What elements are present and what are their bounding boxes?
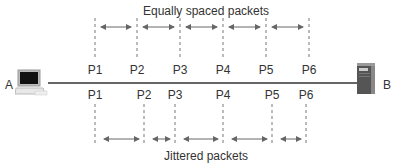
packet-label-bottom: P3 — [168, 88, 183, 102]
top-title: Equally spaced packets — [143, 4, 269, 18]
endpoint-a-label: A — [5, 78, 13, 92]
packet-label-top: P2 — [130, 63, 145, 77]
packet-label-bottom: P4 — [216, 88, 231, 102]
packet-label-top: P5 — [259, 63, 274, 77]
packet-label-top: P4 — [216, 63, 231, 77]
packet-label-top: P3 — [173, 63, 188, 77]
endpoint-b-label: B — [383, 78, 391, 92]
packet-label-top: P1 — [88, 63, 103, 77]
packet-label-bottom: P2 — [137, 88, 152, 102]
diagram-canvas — [0, 0, 396, 167]
packet-label-bottom: P5 — [265, 88, 280, 102]
packet-label-bottom: P1 — [88, 88, 103, 102]
packet-label-top: P6 — [302, 63, 317, 77]
computer-icon — [15, 69, 49, 99]
packet-label-bottom: P6 — [299, 88, 314, 102]
server-icon — [355, 63, 377, 95]
bottom-title: Jittered packets — [164, 149, 248, 163]
